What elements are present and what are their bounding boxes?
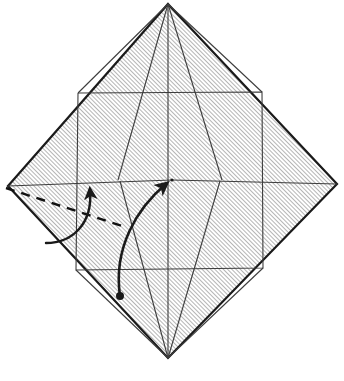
center-reference-point (170, 178, 173, 181)
fold-arrow-start-dot (116, 292, 124, 300)
origami-diagram-svg (0, 0, 344, 381)
origami-figure-root (0, 0, 344, 381)
